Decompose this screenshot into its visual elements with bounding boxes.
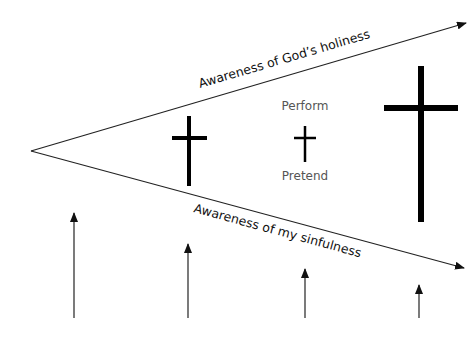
upper-arrow-line [31,23,466,151]
lower-arrow-label: Awareness of my sinfulness [192,200,363,260]
diagram-canvas: Awareness of God’s holiness Awareness of… [0,0,474,337]
cross-tiny-middle [294,126,316,162]
perform-label: Perform [281,99,328,113]
lower-arrow-line [31,151,464,268]
cross-small-left [172,116,207,186]
cross-large-right [384,66,458,222]
pretend-label: Pretend [282,169,328,183]
